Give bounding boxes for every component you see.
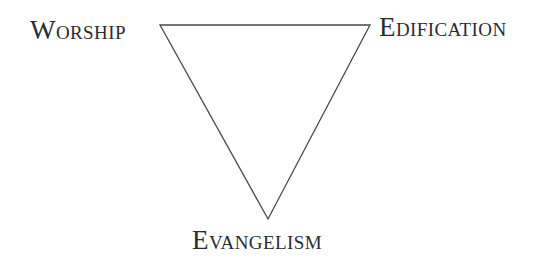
edification-label-lead: E <box>379 12 396 42</box>
worship-label-lead: W <box>30 15 56 45</box>
evangelism-label-lead: E <box>192 225 209 255</box>
edification-label-rest: dification <box>396 12 507 42</box>
worship-label-rest: orship <box>56 15 126 45</box>
vertex-label-worship: Worship <box>30 17 126 44</box>
diagram-canvas: Worship Edification Evangelism <box>0 0 558 265</box>
vertex-label-evangelism: Evangelism <box>192 227 322 254</box>
triangle-outline <box>160 25 370 219</box>
evangelism-label-rest: vangelism <box>209 225 322 255</box>
vertex-label-edification: Edification <box>379 14 507 41</box>
